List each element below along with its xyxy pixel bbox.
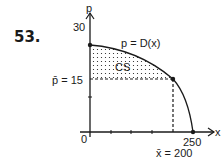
origin-label: 0 <box>81 133 87 145</box>
consumer-surplus-region <box>90 45 173 79</box>
x-intercept-point <box>191 130 195 134</box>
equilibrium-quantity-label: x̄ = 200 <box>156 147 192 159</box>
curve-label: p = D(x) <box>121 37 160 49</box>
x-axis-label: x <box>215 126 221 138</box>
equilibrium-point <box>171 77 175 81</box>
y-axis-label: p <box>86 2 92 14</box>
problem-number: 53. <box>14 28 41 46</box>
y-intercept-point <box>88 43 92 47</box>
equilibrium-price-label: p̄ = 15 <box>52 74 83 86</box>
y-tick-label-30: 30 <box>73 21 85 33</box>
consumer-surplus-figure: 53. p x 30 0 250 p̄ = 15 x̄ = 200 p = D(… <box>0 0 222 160</box>
region-label: CS <box>115 61 130 73</box>
